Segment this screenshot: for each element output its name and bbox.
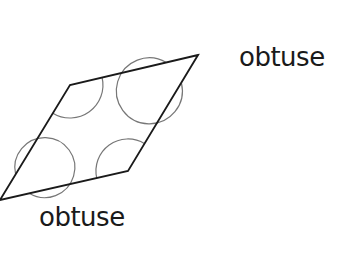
label-obtuse-bottom: obtuse: [39, 204, 125, 230]
angle-marker-bottom-left: [15, 138, 75, 198]
label-obtuse-top: obtuse: [239, 44, 325, 70]
parallelogram-shape: [0, 55, 198, 200]
angle-marker-top-right: [116, 58, 182, 124]
